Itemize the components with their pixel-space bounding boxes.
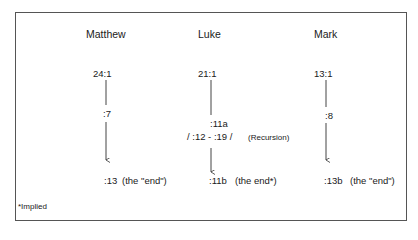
mark-start-ref: 13:1 — [314, 68, 333, 79]
footnote: *Implied — [18, 201, 47, 212]
mark-end-ref: :13b — [324, 175, 343, 186]
luke-middle-ref: :11a — [210, 118, 228, 129]
heading-mark: Mark — [314, 29, 337, 40]
luke-start-ref: 21:1 — [198, 68, 217, 79]
luke-end-note: (the end*) — [235, 175, 277, 186]
luke-end-ref: :11b — [209, 175, 227, 186]
luke-recursion-range: / :12 - :19 / — [187, 131, 232, 142]
heading-luke: Luke — [198, 29, 221, 40]
matthew-start-ref: 24:1 — [93, 68, 112, 79]
luke-recursion-label: (Recursion) — [248, 132, 289, 143]
mark-end-note: (the "end") — [350, 175, 395, 186]
matthew-middle-ref: :7 — [103, 108, 111, 119]
matthew-end-note: (the "end") — [122, 175, 167, 186]
mark-middle-ref: :8 — [325, 110, 333, 121]
heading-matthew: Matthew — [86, 29, 126, 40]
matthew-end-ref: :13 — [104, 175, 117, 186]
